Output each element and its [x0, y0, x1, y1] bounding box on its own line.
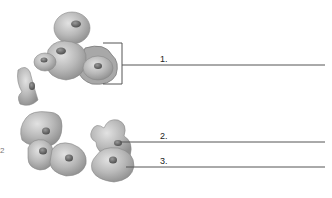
side-curved-cell — [18, 67, 39, 105]
diagram-canvas: 1. 2. 3. 2 — [0, 0, 332, 198]
label-lines — [103, 43, 325, 167]
label-1: 1. — [160, 55, 168, 64]
label-3: 3. — [160, 157, 168, 166]
bottom-left-cell-cluster — [21, 112, 87, 176]
left-partial-mark: 2 — [0, 147, 4, 155]
label-2: 2. — [160, 132, 168, 141]
cell-illustration — [0, 0, 332, 198]
bottom-right-cell-cluster — [91, 120, 134, 182]
top-cell-cluster — [34, 12, 117, 84]
